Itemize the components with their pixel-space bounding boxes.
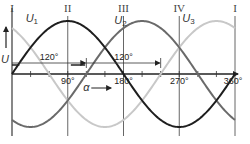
x-axis-label: α: [83, 81, 90, 93]
phase-shift-label-2: 120°: [114, 52, 133, 62]
series-label-subscript: 3: [190, 17, 195, 26]
phase-label-2: II: [64, 2, 72, 14]
phase-label-5: I: [233, 2, 237, 14]
series-label-u1: U1: [26, 12, 39, 26]
phase-label-3: III: [118, 2, 129, 14]
x-tick-label: 360°: [224, 76, 243, 86]
series-label-u3: U3: [182, 12, 195, 26]
x-tick-label: 270°: [170, 76, 189, 86]
three-phase-diagram: IIIIIIIVI90°180°270°360°UαU1U2U3120°120°: [0, 0, 250, 144]
x-tick-label: 90°: [61, 76, 75, 86]
series-label-subscript: 2: [122, 19, 127, 28]
y-axis-label: U: [1, 53, 9, 65]
series-label-u2: U2: [114, 14, 127, 28]
x-tick-label: 180°: [114, 76, 133, 86]
phase-label-1: I: [10, 2, 14, 14]
phase-shift-label-1: 120°: [40, 52, 59, 62]
sine-wave-plot: IIIIIIIVI90°180°270°360°UαU1U2U3120°120°: [0, 0, 250, 144]
series-label-subscript: 1: [34, 17, 39, 26]
